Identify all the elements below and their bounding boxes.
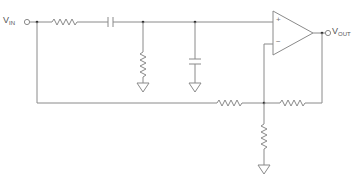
resistor-r1 <box>50 19 80 25</box>
ground-icon <box>258 165 270 174</box>
resistor-r2 <box>140 50 146 83</box>
vin-terminal <box>24 19 29 24</box>
resistor-r3 <box>215 100 264 106</box>
vin-label: VIN <box>3 15 15 26</box>
opamp-minus-sign: − <box>276 37 281 46</box>
vout-terminal <box>325 30 330 35</box>
opamp-plus-sign: + <box>276 15 281 24</box>
vout-label: VOUT <box>332 26 351 37</box>
resistor-r4 <box>264 100 322 106</box>
ground-icon <box>189 83 201 92</box>
circuit-schematic <box>0 0 358 188</box>
resistor-r5 <box>261 122 267 165</box>
ground-icon <box>137 83 149 92</box>
